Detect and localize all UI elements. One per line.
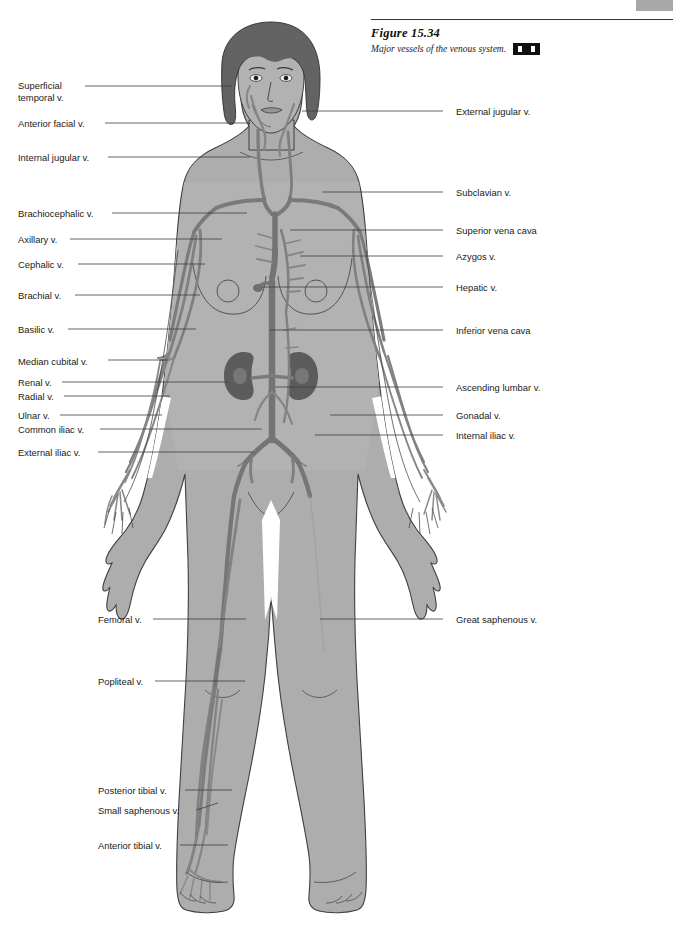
label-external-jugular-v: External jugular v. xyxy=(456,106,530,118)
label-internal-jugular-v: Internal jugular v. xyxy=(18,152,89,164)
label-hepatic-v: Hepatic v. xyxy=(456,282,497,294)
label-common-iliac-v: Common iliac v. xyxy=(18,424,84,436)
label-external-iliac-v: External iliac v. xyxy=(18,447,80,459)
label-azygos-v: Azygos v. xyxy=(456,251,496,263)
label-brachiocephalic-v: Brachiocephalic v. xyxy=(18,208,93,220)
label-median-cubital-v: Median cubital v. xyxy=(18,356,88,368)
label-ulnar-v: Ulnar v. xyxy=(18,410,50,422)
venous-system-illustration xyxy=(0,0,673,942)
label-anterior-facial-v: Anterior facial v. xyxy=(18,118,85,130)
label-superficial-temporal-v: Superficial temporal v. xyxy=(18,80,64,103)
figure-page: Figure 15.34 Major vessels of the venous… xyxy=(0,0,673,942)
label-axillary-v: Axillary v. xyxy=(18,234,57,246)
label-inferior-vena-cava: Inferior vena cava xyxy=(456,325,531,337)
label-gonadal-v: Gonadal v. xyxy=(456,410,501,422)
label-popliteal-v: Popliteal v. xyxy=(98,676,143,688)
label-femoral-v: Femoral v. xyxy=(98,614,142,626)
label-cephalic-v: Cephalic v. xyxy=(18,259,64,271)
label-anterior-tibial-v: Anterior tibial v. xyxy=(98,840,162,852)
label-superior-vena-cava: Superior vena cava xyxy=(456,225,537,237)
label-posterior-tibial-v: Posterior tibial v. xyxy=(98,785,167,797)
label-brachial-v: Brachial v. xyxy=(18,290,61,302)
label-basilic-v: Basilic v. xyxy=(18,324,54,336)
label-renal-v: Renal v. xyxy=(18,377,52,389)
label-great-saphenous-v: Great saphenous v. xyxy=(456,614,537,626)
label-ascending-lumbar-v: Ascending lumbar v. xyxy=(456,382,540,394)
label-subclavian-v: Subclavian v. xyxy=(456,187,511,199)
label-internal-iliac-v: Internal iliac v. xyxy=(456,430,515,442)
label-small-saphenous-v: Small saphenous v. xyxy=(98,805,179,817)
label-radial-v: Radial v. xyxy=(18,391,54,403)
